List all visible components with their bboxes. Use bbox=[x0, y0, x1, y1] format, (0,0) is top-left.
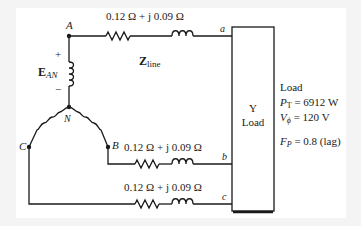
voltage-label: EAN bbox=[38, 65, 59, 80]
terminal-b-label: b bbox=[222, 151, 227, 162]
source-coil-c bbox=[29, 107, 69, 147]
plus-sign: + bbox=[55, 48, 61, 60]
node-n-label: N bbox=[63, 113, 72, 124]
source-coil-b bbox=[69, 107, 108, 147]
circuit-diagram: A N B C + − EAN Zline 0.12 Ω + j 0.09 Ω … bbox=[0, 0, 361, 226]
impedance-b-label: 0.12 Ω + j 0.09 Ω bbox=[124, 141, 202, 153]
node-c-label: C bbox=[19, 140, 27, 152]
load-specs-title: Load bbox=[280, 81, 303, 93]
node-n-dot bbox=[67, 105, 71, 109]
load-specs-pt: PT = 6912 W bbox=[279, 96, 339, 110]
source-coil-a bbox=[69, 62, 74, 86]
minus-sign: − bbox=[55, 83, 61, 95]
node-b-dot bbox=[106, 145, 110, 149]
inductor-a bbox=[172, 31, 193, 36]
impedance-c-label: 0.12 Ω + j 0.09 Ω bbox=[124, 181, 202, 193]
zline-label: Zline bbox=[139, 54, 161, 69]
resistor-c bbox=[135, 200, 159, 208]
load-box-line1: Y bbox=[249, 102, 257, 114]
inductor-c bbox=[172, 199, 193, 204]
node-c-dot bbox=[27, 145, 31, 149]
load-specs-fp: FP = 0.8 (lag) bbox=[279, 135, 341, 149]
load-specs-vphi: Vϕ = 120 V bbox=[280, 111, 330, 125]
node-a-dot bbox=[67, 34, 71, 38]
impedance-a-label: 0.12 Ω + j 0.09 Ω bbox=[106, 10, 184, 22]
resistor-a bbox=[106, 32, 130, 40]
wire-c-down bbox=[29, 147, 135, 204]
terminal-c-label: c bbox=[222, 191, 227, 202]
terminal-a-label: a bbox=[220, 23, 225, 34]
node-b-label: B bbox=[112, 139, 119, 151]
resistor-b bbox=[135, 160, 159, 168]
node-a-label: A bbox=[65, 19, 73, 31]
load-box-line2: Load bbox=[242, 116, 265, 128]
inductor-b bbox=[172, 159, 193, 164]
